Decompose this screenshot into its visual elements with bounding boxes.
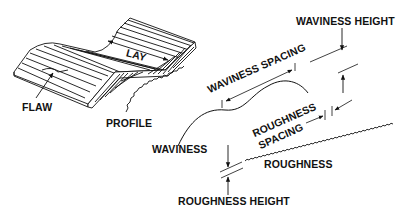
roughness-label: ROUGHNESS xyxy=(264,159,333,170)
roughness-spacing-arrow-right xyxy=(335,100,352,110)
profile-label: PROFILE xyxy=(106,118,152,129)
surface-texture-diagram: LAY FLAW PROFILE WAVINESS HEIGHT WAVINES… xyxy=(0,0,399,215)
waviness-label: WAVINESS xyxy=(152,144,207,155)
diagram-artwork xyxy=(0,0,399,215)
flaw-label: FLAW xyxy=(22,102,52,113)
waviness-height-label: WAVINESS HEIGHT xyxy=(296,16,395,27)
roughness-height-label: ROUGHNESS HEIGHT xyxy=(178,196,290,207)
surface-block-illustration xyxy=(14,18,196,108)
roughness-spacing-arrow-left xyxy=(306,116,323,123)
